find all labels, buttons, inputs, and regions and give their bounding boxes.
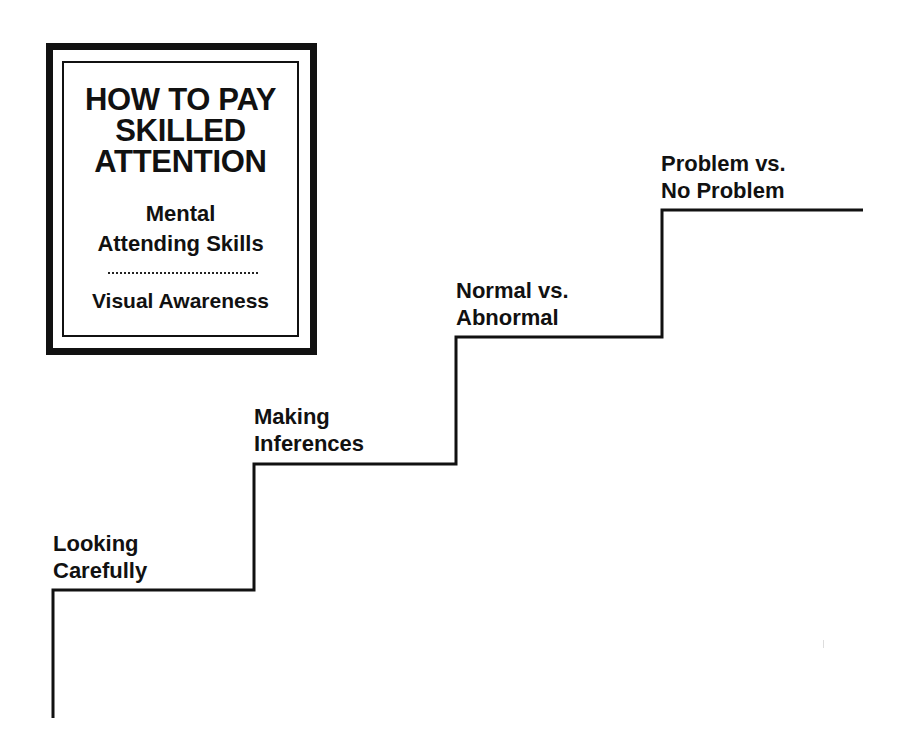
scan-artifact <box>823 640 824 648</box>
step-4-line-1: Problem vs. <box>661 150 786 177</box>
step-3-line-2: Abnormal <box>456 304 569 331</box>
staircase-line <box>0 0 913 756</box>
step-1-line-2: Carefully <box>53 557 147 584</box>
step-3-line-1: Normal vs. <box>456 277 569 304</box>
step-label-2: Making Inferences <box>254 403 364 457</box>
step-label-1: Looking Carefully <box>53 530 147 584</box>
step-1-line-1: Looking <box>53 530 147 557</box>
step-2-line-2: Inferences <box>254 430 364 457</box>
step-2-line-1: Making <box>254 403 364 430</box>
step-label-4: Problem vs. No Problem <box>661 150 786 204</box>
step-4-line-2: No Problem <box>661 177 786 204</box>
step-label-3: Normal vs. Abnormal <box>456 277 569 331</box>
